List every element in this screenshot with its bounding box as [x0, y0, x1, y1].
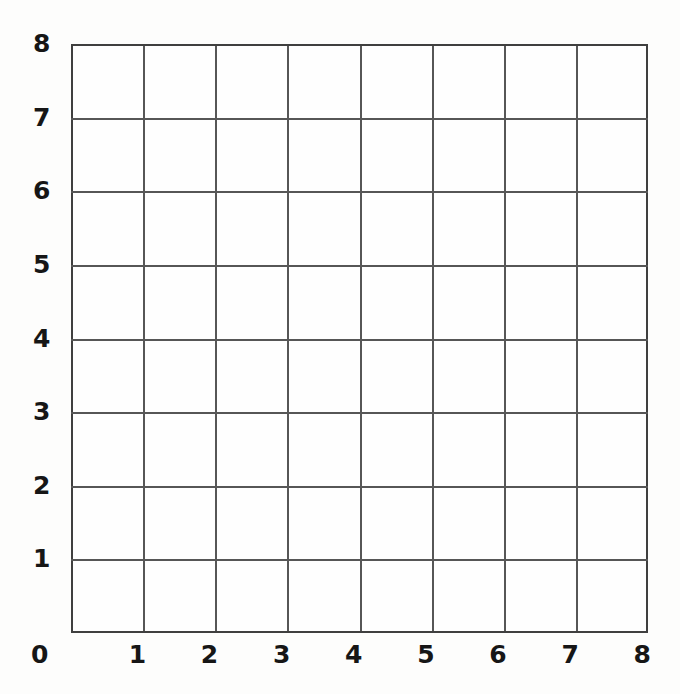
axis-label-x-1: 1 — [122, 642, 152, 667]
axis-label-y-8: 8 — [33, 31, 63, 56]
grid-line-horizontal-2 — [71, 191, 648, 193]
coordinate-grid-figure: 0 8765432112345678 — [0, 0, 680, 694]
axis-label-x-7: 7 — [555, 642, 585, 667]
grid-line-horizontal-0 — [71, 44, 648, 46]
axis-label-x-6: 6 — [483, 642, 513, 667]
grid-line-horizontal-7 — [71, 559, 648, 561]
axis-label-x-4: 4 — [339, 642, 369, 667]
axis-label-y-3: 3 — [33, 399, 63, 424]
axis-label-y-7: 7 — [33, 105, 63, 130]
axis-label-y-5: 5 — [33, 252, 63, 277]
axis-label-y-1: 1 — [33, 546, 63, 571]
grid-line-horizontal-5 — [71, 412, 648, 414]
grid-line-horizontal-8 — [71, 631, 648, 633]
grid-line-horizontal-3 — [71, 265, 648, 267]
axis-label-x-5: 5 — [411, 642, 441, 667]
axis-label-y-6: 6 — [33, 178, 63, 203]
plot-area — [71, 44, 648, 633]
axis-label-origin: 0 — [31, 642, 48, 667]
axis-label-x-8: 8 — [627, 642, 657, 667]
axis-label-x-2: 2 — [194, 642, 224, 667]
grid-line-horizontal-6 — [71, 486, 648, 488]
axis-label-y-2: 2 — [33, 473, 63, 498]
axis-label-y-4: 4 — [33, 326, 63, 351]
axis-label-x-3: 3 — [266, 642, 296, 667]
grid-line-horizontal-4 — [71, 339, 648, 341]
grid-line-horizontal-1 — [71, 118, 648, 120]
